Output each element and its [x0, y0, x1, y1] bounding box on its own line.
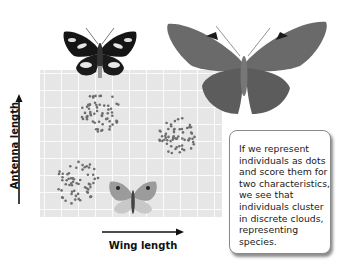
individual-dot	[89, 195, 92, 198]
small-butterfly-icon	[106, 174, 160, 220]
individual-dot	[89, 163, 92, 166]
individual-dot	[107, 112, 110, 115]
x-axis-label-group: Wing length	[98, 226, 188, 262]
individual-dot	[93, 121, 96, 124]
individual-dot	[181, 128, 184, 131]
individual-dot	[105, 118, 108, 121]
individual-dot	[111, 115, 114, 118]
individual-dot	[183, 149, 186, 152]
individual-dot	[190, 131, 193, 134]
individual-dot	[92, 182, 95, 185]
individual-dot	[96, 110, 99, 113]
individual-dot	[61, 179, 64, 182]
individual-dot	[84, 166, 87, 169]
individual-dot	[64, 200, 67, 203]
individual-dot	[81, 107, 84, 110]
individual-dot	[166, 143, 169, 146]
individual-dot	[97, 130, 100, 133]
individual-dot	[107, 105, 110, 108]
individual-dot	[94, 95, 97, 98]
individual-dot	[167, 128, 170, 131]
individual-dot	[166, 139, 169, 142]
x-axis-label: Wing length	[98, 240, 188, 251]
individual-dot	[175, 146, 178, 149]
individual-dot	[101, 112, 104, 115]
individual-dot	[73, 190, 76, 193]
individual-dot	[88, 183, 91, 186]
individual-dot	[70, 177, 73, 180]
individual-dot	[77, 183, 80, 186]
explanation-callout: If we represent individuals as dots and …	[229, 130, 331, 254]
individual-dot	[192, 141, 195, 144]
individual-dot	[193, 136, 196, 139]
individual-dot	[77, 198, 80, 201]
individual-dot	[159, 129, 162, 132]
individual-dot	[111, 111, 114, 114]
individual-dot	[165, 122, 168, 125]
individual-dot	[111, 95, 114, 98]
individual-dot	[182, 131, 185, 134]
individual-dot	[110, 108, 113, 111]
individual-dot	[96, 106, 99, 109]
individual-dot	[89, 186, 92, 189]
individual-dot	[69, 165, 72, 168]
individual-dot	[115, 103, 118, 106]
individual-dot	[61, 176, 64, 179]
individual-dot	[94, 101, 97, 104]
individual-dot	[190, 147, 193, 150]
individual-dot	[108, 120, 111, 123]
individual-dot	[172, 137, 175, 140]
individual-dot	[84, 112, 87, 115]
individual-dot	[179, 151, 182, 154]
individual-dot	[86, 115, 89, 118]
individual-dot	[62, 196, 65, 199]
individual-dot	[101, 129, 104, 132]
individual-dot	[92, 173, 95, 176]
individual-dot	[89, 113, 92, 116]
individual-dot	[170, 125, 173, 128]
individual-dot	[98, 95, 101, 98]
individual-dot	[84, 186, 87, 189]
individual-dot	[57, 188, 60, 191]
individual-dot	[67, 177, 70, 180]
individual-dot	[183, 139, 186, 142]
individual-dot	[109, 125, 112, 128]
individual-dot	[163, 139, 166, 142]
individual-dot	[74, 198, 77, 201]
individual-dot	[75, 166, 78, 169]
individual-dot	[193, 143, 196, 146]
individual-dot	[58, 170, 61, 173]
individual-dot	[88, 107, 91, 110]
large-butterfly-icon	[162, 10, 332, 120]
individual-dot	[188, 126, 191, 129]
individual-dot	[191, 137, 194, 140]
right-arrow-icon	[98, 226, 188, 238]
individual-dot	[95, 104, 98, 107]
individual-dot	[61, 173, 64, 176]
individual-dot	[170, 145, 173, 148]
individual-dot	[98, 103, 101, 106]
individual-dot	[87, 104, 90, 107]
individual-dot	[174, 137, 177, 140]
individual-dot	[65, 183, 68, 186]
individual-dot	[188, 137, 191, 140]
y-axis-label-group: Antenna length	[4, 92, 24, 208]
individual-dot	[97, 177, 100, 180]
individual-dot	[111, 123, 114, 126]
individual-dot	[93, 178, 96, 181]
individual-dot	[87, 173, 90, 176]
individual-dot	[92, 95, 95, 98]
individual-dot	[181, 137, 184, 140]
individual-dot	[181, 144, 184, 147]
individual-dot	[103, 104, 106, 107]
individual-dot	[171, 152, 174, 155]
individual-dot	[169, 140, 172, 143]
individual-dot	[81, 168, 84, 171]
individual-dot	[161, 135, 164, 138]
individual-dot	[77, 193, 80, 196]
y-axis-label: Antenna length	[9, 96, 20, 196]
individual-dot	[101, 123, 104, 126]
individual-dot	[58, 173, 61, 176]
individual-dot	[73, 178, 76, 181]
individual-dot	[70, 182, 73, 185]
